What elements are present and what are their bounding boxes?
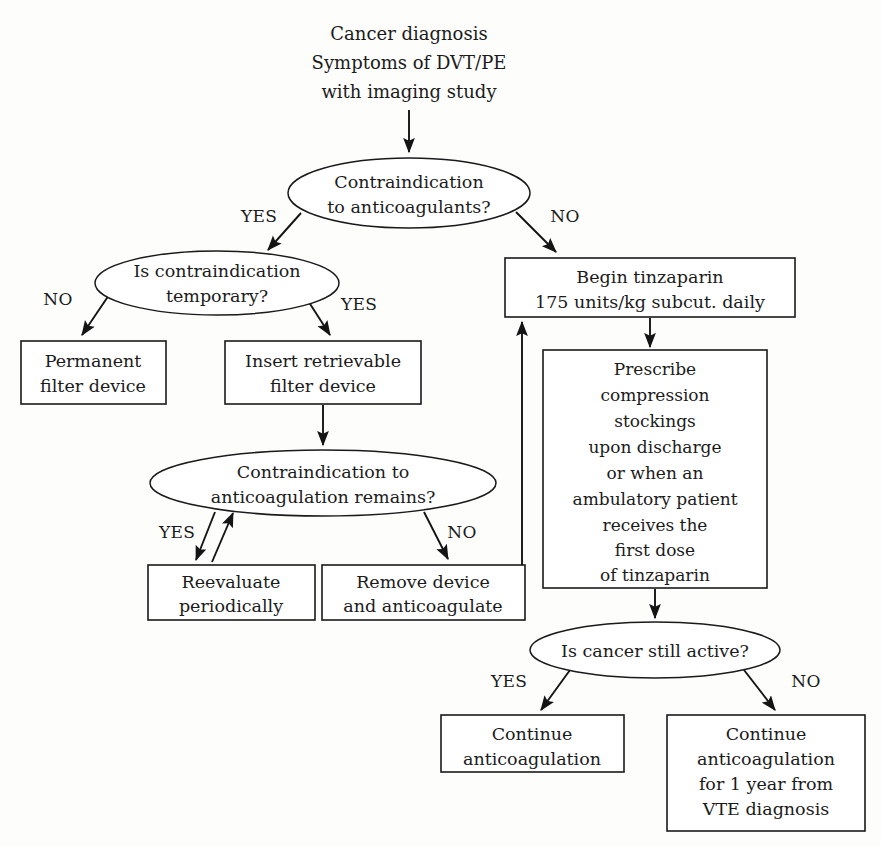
reevaluate-line-1: Reevaluate — [182, 572, 281, 592]
decision-contraindication-anticoagulants-shape[interactable] — [288, 158, 530, 228]
prescribe-line-7: receives the — [603, 515, 708, 535]
branch-label-d1-no: NO — [550, 206, 579, 226]
prescribe-line-4: upon discharge — [588, 437, 721, 457]
continue-line-1: Continue — [492, 724, 573, 744]
prescribe-line-6: ambulatory patient — [573, 489, 738, 509]
prescribe-line-1: Prescribe — [614, 359, 696, 379]
branch-label-d2-no: NO — [43, 289, 72, 309]
edge-d3-to-remove-no — [424, 512, 448, 559]
tinzaparin-line-1: Begin tinzaparin — [576, 267, 723, 287]
branch-label-d3-no: NO — [447, 522, 476, 542]
prescribe-line-5: or when an — [607, 463, 704, 483]
flowchart-canvas: Cancer diagnosis Symptoms of DVT/PE with… — [0, 0, 881, 846]
d2-line-2: temporary? — [166, 286, 268, 306]
d3-line-2: anticoagulation remains? — [211, 487, 436, 507]
prescribe-line-2: compression — [600, 385, 709, 405]
branch-label-d4-no: NO — [791, 671, 820, 691]
start-line-2: Symptoms of DVT/PE — [312, 52, 507, 73]
start-header: Cancer diagnosis Symptoms of DVT/PE with… — [312, 23, 507, 102]
decision-cancer-active-label: Is cancer still active? — [561, 641, 749, 661]
start-line-3: with imaging study — [321, 81, 497, 102]
branch-label-d3-yes: YES — [158, 522, 195, 542]
d4-line-1: Is cancer still active? — [561, 641, 749, 661]
continue-year-line-3: for 1 year from — [699, 774, 834, 794]
edge-d2-to-permanent-no — [82, 295, 109, 335]
edge-d4-to-continue-yes — [541, 670, 570, 710]
prescribe-line-8: first dose — [615, 540, 695, 560]
reevaluate-line-2: periodically — [179, 596, 283, 616]
branch-label-d1-yes: YES — [240, 206, 277, 226]
remove-line-1: Remove device — [356, 572, 490, 592]
branch-label-d2-yes: YES — [340, 294, 377, 314]
edge-d4-to-continue-year-no — [744, 670, 775, 710]
continue-year-line-2: anticoagulation — [697, 749, 835, 769]
d1-line-2: to anticoagulants? — [327, 197, 490, 217]
d2-line-1: Is contraindication — [133, 261, 300, 281]
d1-line-1: Contraindication — [334, 172, 483, 192]
edge-reevaluate-to-d3 — [212, 513, 233, 562]
permanent-line-1: Permanent — [45, 351, 142, 371]
prescribe-line-9: of tinzaparin — [600, 565, 710, 585]
retrievable-line-2: filter device — [270, 376, 376, 396]
flowchart-svg: Cancer diagnosis Symptoms of DVT/PE with… — [0, 0, 881, 846]
prescribe-line-3: stockings — [614, 411, 696, 431]
tinzaparin-line-2: 175 units/kg subcut. daily — [535, 292, 765, 312]
permanent-line-2: filter device — [40, 376, 146, 396]
branch-label-d4-yes: YES — [490, 671, 527, 691]
continue-line-2: anticoagulation — [463, 749, 601, 769]
continue-year-line-4: VTE diagnosis — [702, 799, 829, 819]
remove-line-2: and anticoagulate — [343, 596, 502, 616]
d3-line-1: Contraindication to — [237, 462, 410, 482]
edge-d3-to-reevaluate-yes — [196, 512, 215, 560]
retrievable-line-1: Insert retrievable — [245, 351, 401, 371]
continue-year-line-1: Continue — [726, 724, 807, 744]
start-line-1: Cancer diagnosis — [330, 23, 487, 44]
